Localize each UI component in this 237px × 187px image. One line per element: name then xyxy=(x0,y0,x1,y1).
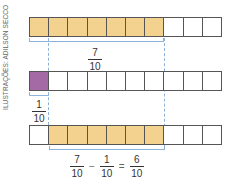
cell xyxy=(68,126,87,144)
cell xyxy=(145,18,164,36)
fraction-bar xyxy=(130,166,144,167)
fraction-b: 1 10 xyxy=(100,154,114,179)
cell xyxy=(49,18,68,36)
brace-six-tenths xyxy=(49,146,165,150)
numerator: 1 xyxy=(104,154,110,165)
denominator: 10 xyxy=(101,168,112,179)
fraction-bar xyxy=(88,59,102,60)
cell xyxy=(88,72,107,90)
denominator: 10 xyxy=(131,168,142,179)
denominator: 10 xyxy=(33,113,44,124)
cell xyxy=(184,72,203,90)
cell xyxy=(107,72,126,90)
brace-one-tenth xyxy=(29,92,49,96)
bar-one-tenth xyxy=(29,71,222,91)
cell xyxy=(68,18,87,36)
fraction-bar xyxy=(32,111,46,112)
cell xyxy=(107,126,126,144)
fraction-c: 6 10 xyxy=(130,154,144,179)
cell xyxy=(145,72,164,90)
cell xyxy=(184,18,203,36)
cell xyxy=(203,18,221,36)
cell xyxy=(203,72,221,90)
numerator: 6 xyxy=(134,154,140,165)
fraction-one-tenth: 1 10 xyxy=(32,99,46,124)
cell xyxy=(184,126,203,144)
cell xyxy=(88,18,107,36)
numerator: 7 xyxy=(92,47,98,58)
fraction-seven-tenths: 7 10 xyxy=(88,47,102,72)
cell xyxy=(145,126,164,144)
cell xyxy=(107,18,126,36)
cell xyxy=(30,18,49,36)
cell xyxy=(30,126,49,144)
numerator: 1 xyxy=(36,99,42,110)
equals-sign: = xyxy=(119,161,125,172)
cell xyxy=(164,72,183,90)
cell xyxy=(164,126,183,144)
cell xyxy=(126,126,145,144)
cell xyxy=(126,72,145,90)
minus-sign: − xyxy=(89,161,95,172)
bar-six-tenths xyxy=(29,125,222,145)
cell xyxy=(49,72,68,90)
cell xyxy=(203,126,221,144)
fraction-bar xyxy=(100,166,114,167)
denominator: 10 xyxy=(71,168,82,179)
brace-seven-tenths xyxy=(29,38,164,42)
fraction-a: 7 10 xyxy=(70,154,84,179)
numerator: 7 xyxy=(74,154,80,165)
subtraction-equation: 7 10 − 1 10 = 6 10 xyxy=(70,154,144,179)
cell xyxy=(68,72,87,90)
cell xyxy=(126,18,145,36)
bar-seven-tenths xyxy=(29,17,222,37)
cell xyxy=(88,126,107,144)
illustration-credit: ILUSTRAÇÕES: ADILSON SECCO xyxy=(2,5,9,110)
fraction-bar xyxy=(70,166,84,167)
cell xyxy=(30,72,49,90)
cell xyxy=(49,126,68,144)
cell xyxy=(164,18,183,36)
